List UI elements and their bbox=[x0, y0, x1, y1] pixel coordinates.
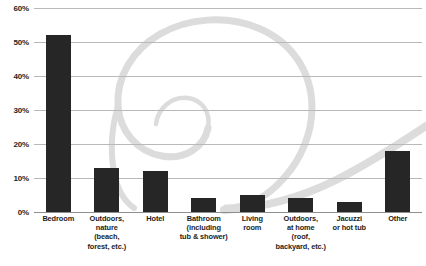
y-tick-label-40: 40% bbox=[14, 73, 29, 81]
bar-chart: 60% 50% 40% 30% 20% 10% 0% BedroomOutdoo… bbox=[0, 0, 426, 266]
y-tick-label-10: 10% bbox=[14, 175, 29, 183]
y-axis: 60% 50% 40% 30% 20% 10% 0% bbox=[0, 0, 34, 212]
x-tick-label-line: forest, etc.) bbox=[79, 242, 136, 251]
x-tick-label-7: Other bbox=[370, 214, 426, 223]
bar-1 bbox=[94, 168, 119, 212]
y-tick-label-30: 30% bbox=[14, 107, 29, 115]
axis-baseline bbox=[34, 212, 422, 213]
x-tick-label-line: tub & shower) bbox=[176, 232, 233, 241]
x-tick-label-line: nature bbox=[79, 223, 136, 232]
x-tick-label-line: Other bbox=[370, 214, 426, 223]
bar-3 bbox=[191, 198, 216, 212]
y-tick-label-50: 50% bbox=[14, 39, 29, 47]
bar-5 bbox=[288, 198, 313, 212]
bar-2 bbox=[143, 171, 168, 212]
x-tick-label-line: or hot tub bbox=[321, 223, 378, 232]
y-tick-label-60: 60% bbox=[14, 5, 29, 13]
y-tick-label-20: 20% bbox=[14, 141, 29, 149]
x-tick-label-line: (roof, bbox=[273, 232, 330, 241]
y-tick-label-0: 0% bbox=[18, 209, 29, 217]
bars-layer bbox=[34, 8, 422, 212]
bar-6 bbox=[337, 202, 362, 212]
bar-7 bbox=[385, 151, 410, 212]
bar-4 bbox=[240, 195, 265, 212]
x-tick-label-line: backyard, etc.) bbox=[273, 242, 330, 251]
bar-0 bbox=[46, 35, 71, 212]
x-axis-labels: BedroomOutdoors,nature(beach,forest, etc… bbox=[34, 214, 422, 266]
x-tick-label-line: (beach, bbox=[79, 232, 136, 241]
